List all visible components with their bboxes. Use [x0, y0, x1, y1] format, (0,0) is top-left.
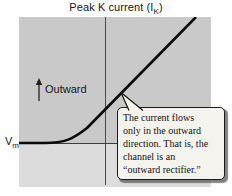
callout-line: only in the outward: [123, 124, 220, 137]
chart-title-prefix: Peak K current (I: [69, 1, 153, 13]
chart-title-suffix: ): [159, 1, 163, 13]
figure-outward-rectifier-chart: Peak K current (IK) Outward Vm The curre…: [0, 0, 232, 196]
callout-pointer-tail: [113, 92, 147, 112]
vm-axis-label: Vm: [5, 135, 19, 150]
callout-line: The current flows: [123, 111, 220, 124]
outward-up-arrow-icon: [34, 78, 44, 102]
annotation-callout-box: The current flows only in the outward di…: [117, 107, 225, 180]
callout-line: channel is an: [123, 150, 220, 163]
callout-line: direction. That is, the: [123, 137, 220, 150]
vm-label-subscript: m: [12, 141, 19, 150]
outward-label: Outward: [45, 83, 87, 95]
callout-line: “outward rectifier.”: [123, 163, 220, 176]
chart-title: Peak K current (IK): [0, 1, 232, 16]
